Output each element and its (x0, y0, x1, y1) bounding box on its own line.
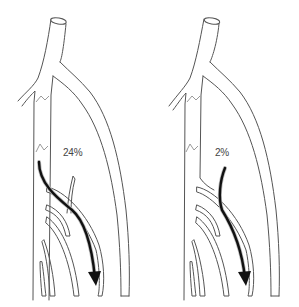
trunk-left-wall (18, 19, 51, 101)
tributary-3 (196, 217, 229, 296)
lateral-vessel-inner (53, 76, 121, 296)
right-panel-percentage: 2% (215, 147, 229, 158)
valve-upper (36, 96, 49, 102)
tributary-2 (196, 205, 220, 236)
lateral-vessel-inner (203, 76, 271, 296)
tributary-3 (46, 217, 79, 296)
left-panel-percentage: 24% (63, 147, 82, 158)
trunk-opening (50, 17, 66, 26)
tributary-5 (40, 262, 46, 296)
valve-lower (36, 144, 48, 152)
tributary-4 (192, 240, 205, 296)
trunk-right-wall (210, 24, 219, 62)
valve-upper (187, 96, 200, 102)
valve-lower (186, 144, 198, 152)
tributary-4 (42, 240, 55, 296)
trunk-right-wall (60, 24, 66, 62)
tributary-5 (190, 262, 196, 296)
trunk-opening (204, 17, 220, 26)
vein-reflux-diagram: 24% 2% (0, 0, 299, 307)
